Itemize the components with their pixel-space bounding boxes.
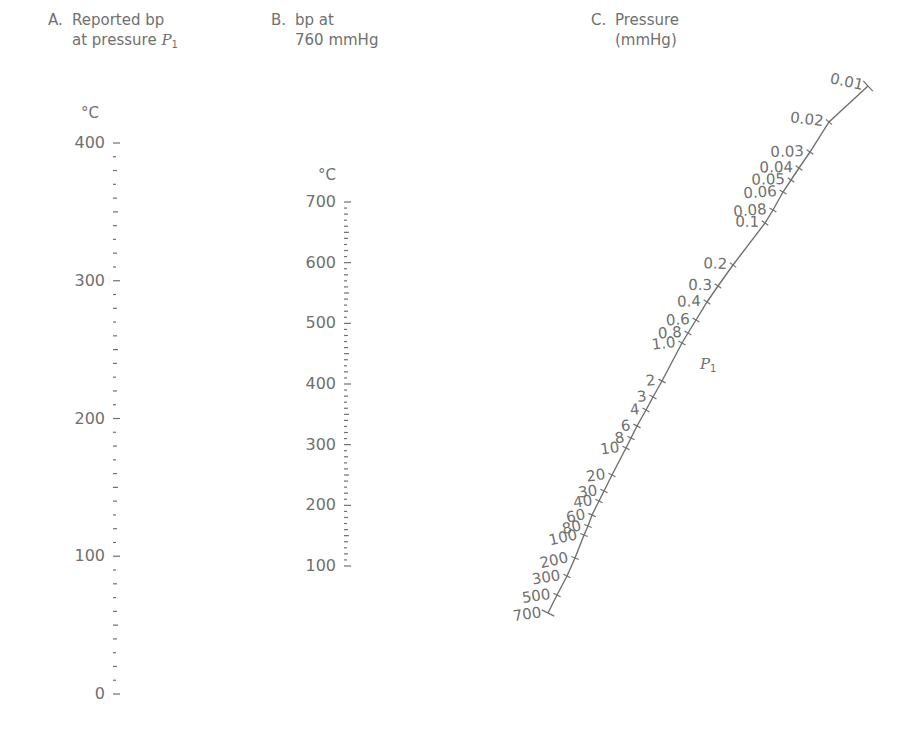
pressure-tick-label: 0.2	[703, 254, 727, 273]
tick	[693, 318, 700, 322]
pressure-tick-label: 1.0	[651, 333, 677, 354]
pressure-tick-label: 0.02	[789, 108, 824, 130]
tick	[807, 150, 814, 154]
pressure-tick-label: 0.1	[735, 213, 759, 231]
tick	[715, 284, 722, 289]
pressure-tick-label: 700	[512, 603, 543, 625]
pressure-tick-label: 0.4	[677, 292, 702, 311]
tick	[762, 221, 768, 226]
pressure-tick-label: 2	[645, 371, 657, 390]
pressure-tick-label: 10	[599, 438, 620, 458]
scale-b-axis	[344, 202, 351, 566]
tick	[796, 166, 803, 170]
scale-c-axis: 0.010.020.030.040.050.060.080.10.20.30.4…	[512, 69, 873, 625]
tick	[730, 263, 736, 268]
pressure-tick-label: 4	[629, 400, 640, 419]
pressure-tick-label: 100	[547, 525, 579, 549]
tick	[788, 178, 795, 182]
tick	[685, 331, 692, 335]
nomograph-canvas: 0.010.020.030.040.050.060.080.10.20.30.4…	[0, 0, 913, 736]
scale-a-axis	[113, 143, 120, 694]
tick	[704, 300, 711, 304]
pressure-tick-label: 0.06	[743, 182, 778, 202]
tick	[542, 610, 555, 616]
pressure-tick-label: 0.01	[829, 69, 865, 94]
